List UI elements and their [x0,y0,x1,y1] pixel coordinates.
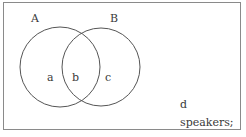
region-d-label: d [180,99,187,110]
region-b-label: b [72,72,79,83]
set-b-label: B [110,13,118,24]
caption-text: speakers; [180,117,234,128]
region-a-label: a [47,72,54,83]
set-a-label: A [31,13,39,24]
region-c-label: c [105,72,111,83]
set-a-circle [20,27,100,107]
set-b-circle [62,28,140,106]
